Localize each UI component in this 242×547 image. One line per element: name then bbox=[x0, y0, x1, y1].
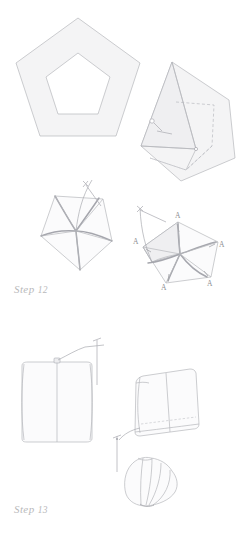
step-12-label: Step 12 bbox=[14, 283, 48, 295]
vertex-label-a-top: A bbox=[175, 211, 180, 220]
figure-petal-fan bbox=[125, 457, 178, 506]
pin-head bbox=[150, 119, 154, 123]
instruction-page: .fab { fill:#f4f4f5; stroke:#b6b7bc; str… bbox=[0, 0, 242, 547]
step-13-word: Step bbox=[14, 503, 35, 515]
needle-shaft-labeled bbox=[140, 210, 166, 222]
thread-to-needle bbox=[58, 347, 85, 360]
figure-folded-panel-angled bbox=[113, 369, 199, 472]
figure-pentagon-gathered-left bbox=[41, 180, 112, 270]
step-13-number: 13 bbox=[38, 505, 48, 515]
figure-pentagon-ring-flat bbox=[16, 18, 140, 136]
step-13-label: Step 13 bbox=[14, 503, 48, 515]
step-12-number: 12 bbox=[38, 285, 48, 295]
vertex-label-a-bottom-right: A bbox=[207, 279, 212, 288]
figure-pentagon-folded-flap bbox=[141, 62, 235, 181]
instruction-illustrations: .fab { fill:#f4f4f5; stroke:#b6b7bc; str… bbox=[0, 0, 242, 547]
figure-folded-panel-front bbox=[22, 338, 104, 442]
vertex-label-a-left: A bbox=[133, 237, 138, 246]
vertex-label-a-bottom-left: A bbox=[161, 283, 166, 292]
angled-panel-outline bbox=[135, 369, 199, 436]
pin-clip bbox=[54, 358, 60, 363]
fold-junction-dot bbox=[194, 147, 197, 150]
thread-knot-dot bbox=[116, 438, 118, 440]
thread-horizontal bbox=[85, 345, 104, 347]
step-12-word: Step bbox=[14, 283, 35, 295]
vertex-label-a-right: A bbox=[219, 240, 224, 249]
